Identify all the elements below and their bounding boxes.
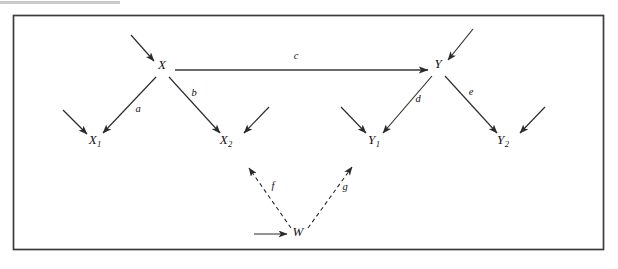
path-diagram-figure: abcdefg XYX1X2Y1Y2W xyxy=(0,0,618,269)
edge-label-b: b xyxy=(191,87,196,98)
figure-border xyxy=(14,16,604,250)
node-w: W xyxy=(293,224,305,239)
disturbance-arrow-x1 xyxy=(63,110,87,134)
node-x: X xyxy=(157,57,167,72)
diagram-canvas: abcdefg XYX1X2Y1Y2W xyxy=(0,0,618,269)
disturbance-arrow-x2 xyxy=(244,107,269,133)
edge-g-w-to-y1 xyxy=(308,167,352,228)
edge-d-y-to-y1 xyxy=(383,76,432,133)
node-x1: X1 xyxy=(88,132,102,149)
disturbance-arrow-group xyxy=(63,29,545,234)
edge-b-x-to-x2 xyxy=(169,77,220,133)
node-x2: X2 xyxy=(219,132,233,149)
edge-label-a: a xyxy=(135,103,140,114)
edge-e-y-to-y2 xyxy=(445,76,497,133)
disturbance-arrow-x xyxy=(131,35,154,61)
edge-label-f: f xyxy=(272,180,277,191)
edge-group xyxy=(103,70,497,228)
node-y2: Y2 xyxy=(497,132,510,149)
node-group: XYX1X2Y1Y2W xyxy=(88,56,510,239)
disturbance-arrow-y xyxy=(448,29,473,60)
edge-f-w-to-x2 xyxy=(249,168,291,228)
node-y1: Y1 xyxy=(368,132,380,149)
edge-label-c: c xyxy=(294,50,299,61)
disturbance-arrow-y2 xyxy=(520,107,545,133)
disturbance-arrow-y1 xyxy=(341,107,366,133)
edge-label-group: abcdefg xyxy=(135,50,473,192)
edge-label-g: g xyxy=(342,181,347,192)
edge-label-e: e xyxy=(469,86,474,97)
scan-artifact-top xyxy=(0,1,120,4)
node-y: Y xyxy=(434,56,443,71)
edge-label-d: d xyxy=(415,93,421,104)
edge-a-x-to-x1 xyxy=(103,77,156,133)
